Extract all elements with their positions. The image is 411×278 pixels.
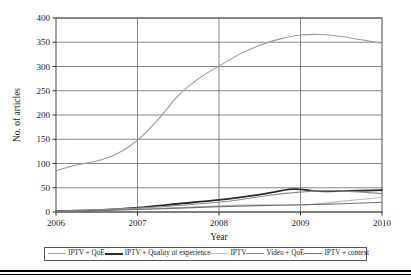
legend-item-label: IPTV <box>230 250 246 257</box>
footer-rule-thin <box>0 274 411 275</box>
chart-legend: IPTV + QoEIPTV + Quality of experienceIP… <box>44 247 367 261</box>
legend-item[interactable]: IPTV + Quality of experience <box>105 250 211 257</box>
legend-swatch-line-icon <box>246 253 264 254</box>
y-axis-title: No. of articles <box>12 88 22 142</box>
legend-swatch-line-icon <box>48 253 66 254</box>
line-chart: 050100150200250300350400 200620072008200… <box>0 0 411 278</box>
x-tick-label: 2010 <box>373 218 392 228</box>
x-axis-tick-labels: 20062007200820092010 <box>47 218 392 228</box>
y-tick-label: 350 <box>37 37 51 47</box>
legend-item[interactable]: IPTV + QoE <box>48 250 105 257</box>
legend-swatch-line-icon <box>210 253 228 254</box>
legend-item[interactable]: IPTV <box>210 250 246 257</box>
legend-item-label: Video + QoE <box>266 250 304 257</box>
y-tick-label: 400 <box>37 13 51 23</box>
y-tick-label: 150 <box>37 134 51 144</box>
y-tick-label: 50 <box>41 183 51 193</box>
x-tick-label: 2008 <box>210 218 229 228</box>
legend-item-label: IPTV + Quality of experience <box>125 250 211 257</box>
legend-item[interactable]: Video + QoE <box>246 250 304 257</box>
y-tick-label: 200 <box>37 110 51 120</box>
y-tick-label: 250 <box>37 86 51 96</box>
legend-swatch-line-icon <box>105 253 123 255</box>
x-axis-title: Year <box>210 232 228 242</box>
x-tick-label: 2006 <box>47 218 66 228</box>
plot-frame <box>53 18 383 216</box>
y-axis-tick-labels: 050100150200250300350400 <box>37 13 51 217</box>
legend-item-label: IPTV + QoE <box>68 250 105 257</box>
legend-item[interactable]: IPTV + context <box>304 250 369 257</box>
x-tick-label: 2009 <box>292 218 311 228</box>
y-tick-label: 0 <box>46 207 51 217</box>
footer-rule-thick <box>0 270 411 272</box>
grid-lines <box>56 18 382 212</box>
y-tick-label: 300 <box>37 62 51 72</box>
figure-container: 050100150200250300350400 200620072008200… <box>0 0 411 278</box>
x-tick-label: 2007 <box>129 218 148 228</box>
legend-item-label: IPTV + context <box>324 250 369 257</box>
legend-swatch-line-icon <box>304 253 322 254</box>
y-tick-label: 100 <box>37 159 51 169</box>
